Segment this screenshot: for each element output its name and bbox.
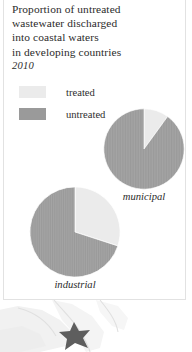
page-title: Proportion of untreated wastewater disch…: [12, 2, 180, 73]
pie-chart-industrial: [29, 186, 121, 278]
title-line-4: in developing countries: [12, 45, 180, 59]
title-line-2: wastewater discharged: [12, 16, 180, 30]
pie-chart-municipal: [103, 108, 185, 190]
legend-label-treated: treated: [66, 87, 95, 98]
pie-slice-untreated: [104, 109, 184, 189]
legend-swatch-untreated: [19, 108, 46, 120]
legend-label-untreated: untreated: [66, 109, 105, 120]
legend-swatch-treated: [19, 86, 46, 98]
pie-caption-industrial: industrial: [29, 279, 121, 290]
legend-item-treated: treated: [19, 83, 105, 101]
title-line-3: into coastal waters: [12, 30, 180, 44]
legend-item-untreated: untreated: [19, 105, 105, 123]
infographic-panel: Proportion of untreated wastewater disch…: [3, 0, 186, 300]
title-line-1: Proportion of untreated: [12, 2, 180, 16]
chart-legend: treated untreated: [19, 83, 105, 127]
title-year: 2010: [12, 59, 180, 73]
